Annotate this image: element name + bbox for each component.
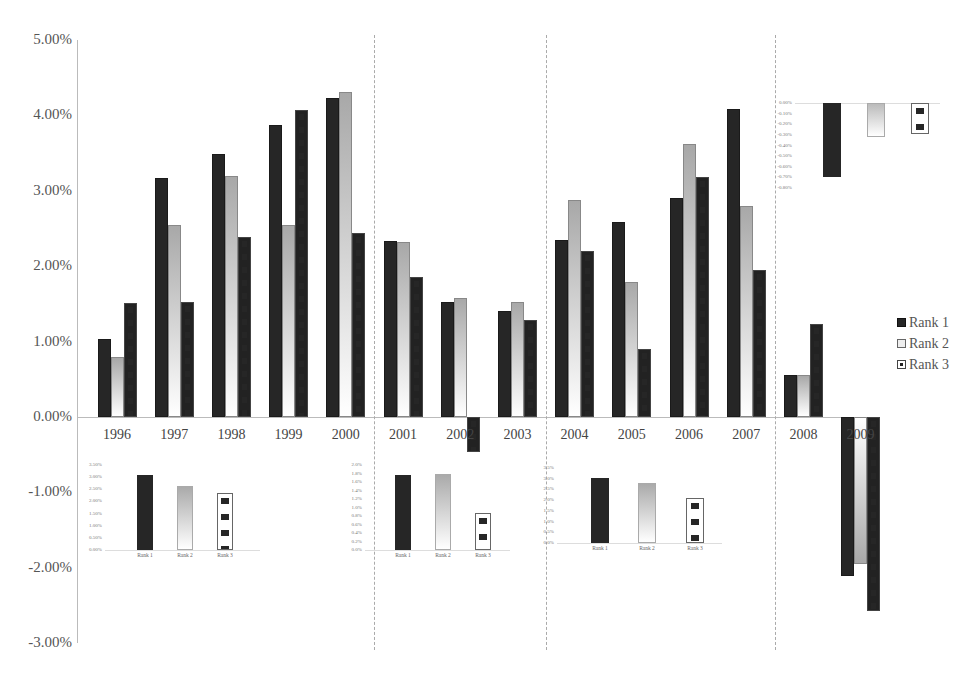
bar-rank-1 <box>441 302 454 417</box>
period-separator-line <box>546 35 547 650</box>
inset-x-label: Rank 2 <box>170 552 200 558</box>
bar-rank-3 <box>295 110 308 417</box>
bar-rank-2 <box>111 357 124 417</box>
bar-rank-3 <box>638 349 651 417</box>
bar-rank-2 <box>797 375 810 417</box>
legend: Rank 1 Rank 2 Rank 3 <box>897 312 949 375</box>
dot-pattern <box>871 418 876 610</box>
bar-rank-1 <box>155 178 168 417</box>
bar-rank-3 <box>867 417 880 611</box>
legend-label: Rank 2 <box>909 336 949 352</box>
inset-y-tick-label: 0.5% <box>522 529 554 534</box>
x-tick-label: 2008 <box>778 427 828 443</box>
dot-pattern <box>585 252 590 416</box>
inset-chart-2004-2007: 3.5%3.0%2.5%2.0%1.5%1.0%0.5%0.0%Rank 1Ra… <box>552 468 722 553</box>
y-tick-label: -2.00% <box>0 559 72 576</box>
inset-y-tick-label: -0.70% <box>760 174 792 179</box>
y-tick-label: -3.00% <box>0 634 72 651</box>
bar-rank-3 <box>238 237 251 416</box>
bar-rank-1 <box>727 109 740 417</box>
inset-baseline <box>557 543 722 544</box>
inset-bar-rank-2 <box>435 474 451 551</box>
bar-rank-2 <box>225 176 238 416</box>
inset-chart-2008-2009: 0.00%-0.10%-0.20%-0.30%-0.40%-0.50%-0.60… <box>790 103 940 188</box>
x-tick-label: 1997 <box>149 427 199 443</box>
bar-rank-2 <box>339 92 352 417</box>
rank-2-swatch-icon <box>897 339 906 348</box>
x-tick-label: 2006 <box>664 427 714 443</box>
bar-rank-2 <box>511 302 524 417</box>
inset-y-tick-label: 2.0% <box>330 462 362 467</box>
inset-y-tick-label: 2.50% <box>70 486 102 491</box>
inset-y-tick-label: 3.00% <box>70 474 102 479</box>
legend-item-rank-2: Rank 2 <box>897 333 949 354</box>
dot-pattern <box>299 111 304 416</box>
inset-baseline <box>105 550 260 551</box>
inset-y-tick-label: -0.20% <box>760 121 792 126</box>
y-tick-label: 2.00% <box>0 257 72 274</box>
dot-pattern <box>356 234 361 416</box>
inset-y-tick-label: 0.4% <box>330 530 362 535</box>
x-tick-label: 2002 <box>435 427 485 443</box>
inset-y-tick-label: 1.6% <box>330 479 362 484</box>
inset-y-tick-label: 0.50% <box>70 535 102 540</box>
inset-bar-rank-1 <box>137 475 153 550</box>
inset-baseline <box>365 550 510 551</box>
bar-rank-2 <box>568 200 581 417</box>
inset-y-tick-label: 1.8% <box>330 471 362 476</box>
inset-x-label: Rank 1 <box>585 545 615 551</box>
inset-y-tick-label: -0.30% <box>760 132 792 137</box>
inset-bar-rank-1 <box>395 475 411 550</box>
bar-rank-2 <box>454 298 467 417</box>
dot-pattern <box>528 321 533 415</box>
rank-3-swatch-icon <box>897 360 906 369</box>
inset-y-tick-label: 2.5% <box>522 486 554 491</box>
x-tick-label: 2004 <box>550 427 600 443</box>
inset-y-tick-label: 1.0% <box>522 519 554 524</box>
bar-rank-2 <box>740 206 753 417</box>
inset-y-tick-label: 0.00% <box>760 100 792 105</box>
bar-rank-3 <box>524 320 537 416</box>
inset-chart-2001-2003: 2.0%1.8%1.6%1.4%1.2%1.0%0.8%0.6%0.4%0.2%… <box>360 465 510 560</box>
dot-pattern <box>414 278 419 416</box>
y-tick-label: 4.00% <box>0 106 72 123</box>
inset-x-label: Rank 3 <box>210 552 240 558</box>
x-tick-label: 1996 <box>92 427 142 443</box>
inset-y-tick-label: 1.50% <box>70 511 102 516</box>
bar-rank-3 <box>753 270 766 417</box>
bar-rank-2 <box>625 282 638 417</box>
inset-y-tick-label: 1.4% <box>330 488 362 493</box>
inset-x-label: Rank 1 <box>130 552 160 558</box>
legend-label: Rank 1 <box>909 315 949 331</box>
rank-1-swatch-icon <box>897 318 906 327</box>
x-tick-label: 2005 <box>607 427 657 443</box>
inset-y-tick-label: 0.0% <box>330 547 362 552</box>
main-bar-chart: 5.00%4.00%3.00%2.00%1.00%0.00%-1.00%-2.0… <box>0 0 976 684</box>
inset-y-tick-label: -0.50% <box>760 153 792 158</box>
inset-bar-rank-3 <box>686 498 704 543</box>
bar-rank-1 <box>98 339 111 417</box>
inset-y-tick-label: 0.2% <box>330 539 362 544</box>
dot-pattern <box>700 178 705 416</box>
dot-pattern <box>757 271 762 416</box>
inset-y-tick-label: 3.5% <box>522 465 554 470</box>
y-axis <box>77 40 78 643</box>
inset-y-tick-label: -0.10% <box>760 111 792 116</box>
inset-y-tick-label: 0.0% <box>522 540 554 545</box>
bar-rank-1 <box>784 375 797 417</box>
y-tick-label: -1.00% <box>0 483 72 500</box>
inset-y-tick-label: 3.0% <box>522 476 554 481</box>
inset-y-tick-label: 0.6% <box>330 522 362 527</box>
inset-y-tick-label: 1.0% <box>330 505 362 510</box>
y-tick-label: 5.00% <box>0 31 72 48</box>
y-tick-label: 1.00% <box>0 333 72 350</box>
x-tick-label: 2000 <box>321 427 371 443</box>
inset-bar-rank-3 <box>911 103 929 134</box>
bar-rank-2 <box>683 144 696 417</box>
bar-rank-1 <box>212 154 225 417</box>
x-tick-label: 1999 <box>264 427 314 443</box>
dot-pattern <box>242 238 247 415</box>
inset-bar-rank-2 <box>177 486 193 550</box>
inset-x-label: Rank 2 <box>428 552 458 558</box>
inset-x-label: Rank 1 <box>388 552 418 558</box>
